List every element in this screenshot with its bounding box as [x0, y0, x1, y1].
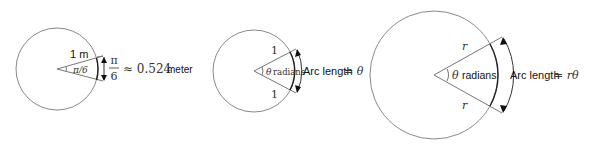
arc-length-eq-2: = θ [344, 65, 364, 78]
radius-label-bottom-3: r [462, 99, 468, 112]
angle-marker-3 [447, 69, 448, 81]
approx-value: ≈ 0.524 [123, 62, 172, 76]
angle-label-1: π/6 [72, 65, 88, 75]
radian-diagrams: 1 m π/6 π 6 ≈ 0.524 meter 1 1 θ radians … [0, 0, 593, 147]
arrow-down-icon [101, 75, 107, 81]
arrow-down-icon [500, 105, 507, 113]
fraction-denominator: 6 [111, 70, 118, 83]
arc-length-eq-3: = rθ [554, 69, 579, 82]
radius-label-top-3: r [462, 40, 468, 53]
diagram-unit-circle: 1 1 θ radians Arc length = θ [213, 30, 364, 112]
arc-length-label-3: Arc length [510, 69, 560, 81]
arrow-up-icon [101, 57, 107, 63]
radius-label-1: 1 m [70, 48, 88, 60]
arrow-up-icon [500, 37, 507, 45]
theta-symbol-3: θ [452, 69, 459, 82]
unit-label: meter [167, 64, 193, 75]
radius-label-bottom-2: 1 [271, 88, 278, 101]
radius-label-top-2: 1 [271, 44, 278, 57]
radians-word-3: radians [462, 69, 496, 81]
fraction-numerator: π [110, 54, 117, 67]
theta-symbol-2: θ [266, 67, 272, 77]
angle-marker-2 [262, 67, 263, 75]
diagram-one-meter: 1 m π/6 π 6 ≈ 0.524 meter [16, 28, 193, 110]
arrow-down-icon [295, 85, 301, 93]
radians-word-2: radians [273, 67, 305, 77]
arrow-up-icon [295, 49, 301, 57]
diagram-general-circle: r r θ radians Arc length = rθ [370, 11, 579, 139]
arc-segment-1 [97, 58, 99, 80]
